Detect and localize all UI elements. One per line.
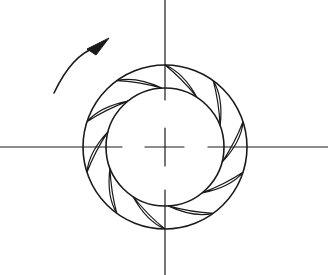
centerlines: [0, 0, 328, 275]
impeller-drawing: [0, 0, 328, 275]
impeller-blade: [87, 101, 128, 122]
impeller-diagram: [0, 0, 328, 275]
impeller-blade: [222, 122, 243, 163]
impeller-blade: [202, 172, 243, 193]
arrowhead-icon: [87, 38, 109, 55]
rotation-arrow-icon: [54, 38, 109, 93]
impeller-blade: [168, 206, 213, 215]
impeller-blade: [117, 79, 162, 88]
impeller-blade: [87, 132, 108, 173]
rotation-arc: [54, 48, 95, 93]
